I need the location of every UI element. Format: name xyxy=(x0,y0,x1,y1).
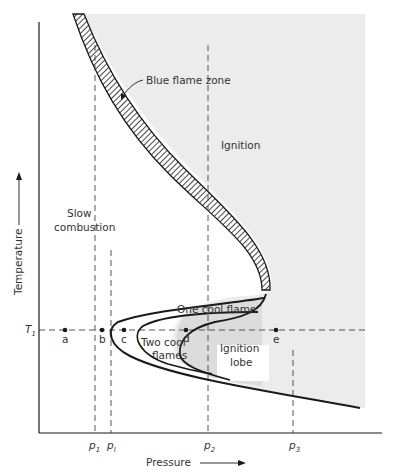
ignition-label: Ignition xyxy=(221,139,260,151)
point-e xyxy=(274,328,279,333)
point-a xyxy=(63,328,68,333)
point-a-label: a xyxy=(62,333,68,345)
x-axis-arrow-head xyxy=(238,460,246,466)
point-c-label: c xyxy=(121,333,127,345)
point-c xyxy=(122,328,127,333)
ignition-diagram: a b c d e Blue flame zone Ignition Slow … xyxy=(0,0,393,476)
blue-flame-zone-label: Blue flame zone xyxy=(146,74,231,86)
slow-combustion-label-1: Slow xyxy=(67,207,92,219)
two-cool-flames-label-2: flames xyxy=(152,349,187,361)
x-axis-label: Pressure xyxy=(146,456,191,468)
ignition-lobe-label-1: Ignition xyxy=(220,342,259,354)
one-cool-flame-label: One cool flame xyxy=(177,303,256,315)
ignition-lobe-label-2: lobe xyxy=(230,356,252,368)
y-axis-arrow-head xyxy=(16,172,22,180)
two-cool-flames-label-1: Two cool xyxy=(140,336,186,348)
t1-label: T1 xyxy=(25,323,36,338)
point-b-label: b xyxy=(99,333,106,345)
pl-label: pl xyxy=(106,439,116,454)
point-b xyxy=(100,328,105,333)
p3-label: p3 xyxy=(288,439,300,454)
p1-label: p1 xyxy=(88,439,100,454)
p2-label: p2 xyxy=(203,439,216,454)
point-e-label: e xyxy=(273,333,279,345)
y-axis-label: Temperature xyxy=(12,228,24,296)
slow-combustion-label-2: combustion xyxy=(54,221,115,233)
